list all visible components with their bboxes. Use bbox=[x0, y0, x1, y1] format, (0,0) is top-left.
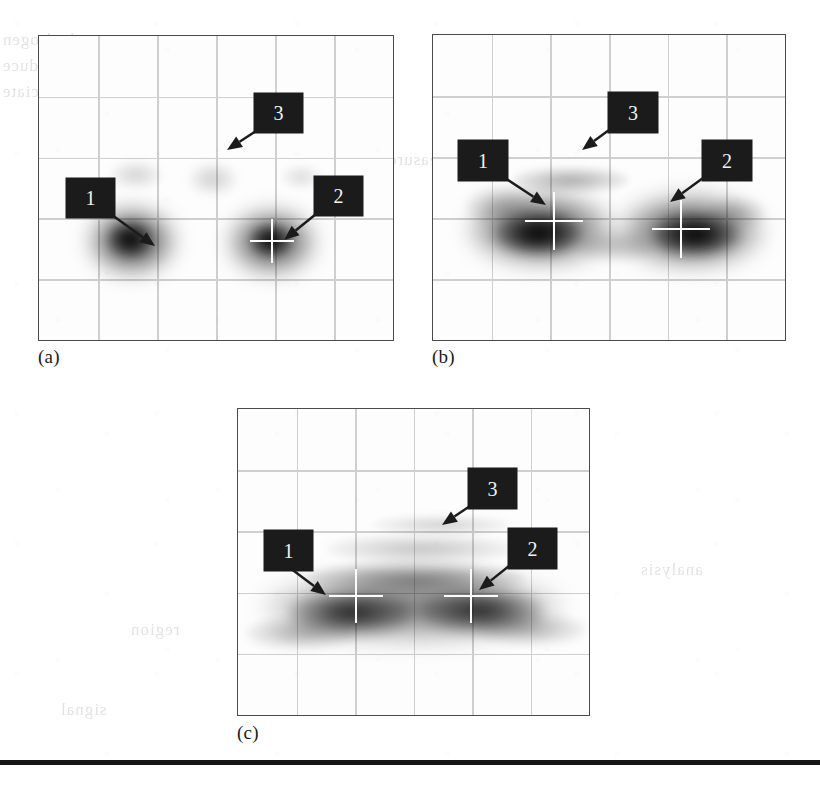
callout-label-3-panel-c: 3 bbox=[468, 468, 517, 509]
gridline-horizontal bbox=[39, 279, 393, 281]
leader-line bbox=[505, 178, 533, 197]
callout-number: 1 bbox=[86, 188, 96, 208]
callout-label-2-panel-c: 2 bbox=[508, 528, 557, 569]
gridline-vertical bbox=[157, 36, 159, 340]
signal-blob bbox=[576, 230, 656, 262]
arrowhead-icon bbox=[530, 192, 546, 205]
callout-label-2-panel-a: 2 bbox=[314, 176, 363, 216]
page-footer-rule bbox=[0, 760, 820, 765]
callout-number: 3 bbox=[488, 479, 498, 499]
callout-label-3-panel-a: 3 bbox=[254, 93, 303, 133]
signal-blob bbox=[246, 617, 356, 649]
scope-gridlines-b bbox=[433, 35, 785, 340]
gridline-vertical bbox=[609, 35, 611, 340]
gridline-vertical bbox=[726, 35, 728, 340]
callout-label-1-panel-c: 1 bbox=[264, 530, 313, 571]
gridline-vertical bbox=[355, 409, 357, 715]
arrowhead-icon bbox=[670, 188, 686, 202]
leader-line bbox=[594, 130, 609, 141]
panel-caption-a: (a) bbox=[38, 346, 60, 368]
gridline-horizontal bbox=[433, 218, 785, 220]
callout-label-3-panel-b: 3 bbox=[608, 92, 658, 133]
gridline-vertical bbox=[216, 36, 218, 340]
callout-number: 1 bbox=[284, 541, 294, 561]
signal-blob bbox=[189, 163, 237, 195]
gridline-vertical bbox=[275, 36, 277, 340]
gridline-vertical bbox=[414, 409, 416, 715]
callout-label-2-panel-b: 2 bbox=[702, 140, 752, 181]
gridline-horizontal bbox=[39, 97, 393, 99]
bleed-through-text: analysis bbox=[640, 560, 703, 580]
panel-caption-b: (b) bbox=[432, 346, 455, 368]
signal-blobs-b bbox=[433, 35, 785, 340]
panel-caption-c: (c) bbox=[237, 722, 259, 744]
leader-line bbox=[112, 215, 143, 237]
gridline-horizontal bbox=[39, 218, 393, 220]
bleed-through-text: region bbox=[130, 620, 179, 640]
arrowhead-icon bbox=[310, 581, 326, 595]
callout-number: 1 bbox=[478, 151, 488, 171]
signal-blob bbox=[110, 161, 162, 189]
callout-number: 3 bbox=[274, 103, 284, 123]
leader-line bbox=[296, 214, 316, 231]
crosshair-horizontal bbox=[652, 228, 710, 231]
signal-blob bbox=[652, 215, 740, 255]
leader-line bbox=[491, 566, 509, 581]
callout-number: 3 bbox=[628, 103, 638, 123]
leader-line bbox=[682, 178, 703, 193]
arrowhead-icon bbox=[582, 136, 598, 150]
signal-blob bbox=[476, 613, 586, 645]
callout-label-1-panel-b: 1 bbox=[458, 140, 508, 181]
scope-screen-b bbox=[432, 34, 786, 341]
callout-number: 2 bbox=[722, 151, 732, 171]
signal-blob bbox=[494, 214, 582, 254]
arrowhead-icon bbox=[442, 511, 458, 525]
gridline-horizontal bbox=[238, 654, 589, 656]
bleed-through-text: signal bbox=[60, 700, 107, 720]
gridline-horizontal bbox=[238, 470, 589, 472]
callout-number: 2 bbox=[528, 539, 538, 559]
gridline-horizontal bbox=[433, 279, 785, 281]
crosshair-horizontal bbox=[525, 220, 583, 223]
arrowhead-icon bbox=[227, 137, 243, 150]
crosshair-vertical bbox=[355, 569, 358, 623]
callout-label-1-panel-a: 1 bbox=[66, 178, 115, 218]
callout-number: 2 bbox=[334, 186, 344, 206]
arrowhead-icon bbox=[139, 232, 155, 246]
panel-b bbox=[432, 34, 786, 341]
